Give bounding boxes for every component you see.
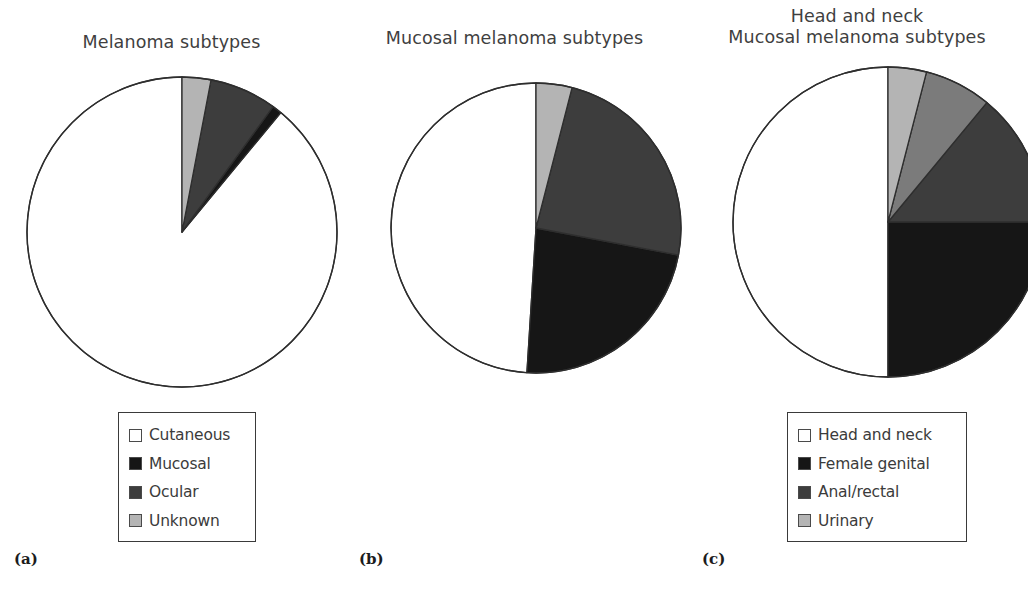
legend-a: CutaneousMucosalOcularUnknown	[118, 412, 256, 542]
legend-row: Ocular	[129, 478, 243, 507]
panel-label-c: (c)	[702, 550, 725, 568]
chart-title-c: Head and neck Mucosal melanoma subtypes	[686, 6, 1028, 48]
pie-slice	[888, 222, 1028, 377]
legend-row: Unknown	[129, 507, 243, 536]
legend-row: Mucosal	[129, 450, 243, 479]
pie-svg-b	[386, 78, 686, 378]
legend-row: Cutaneous	[129, 421, 243, 450]
pie-slice	[391, 83, 536, 373]
panel-b: Mucosal melanoma subtypes Head and neckF…	[343, 0, 686, 595]
pie-chart-a	[22, 72, 342, 396]
chart-title-a: Melanoma subtypes	[0, 32, 343, 53]
legend-swatch-icon	[129, 457, 142, 470]
panel-a: Melanoma subtypes CutaneousMucosalOcular…	[0, 0, 343, 595]
legend-swatch-icon	[129, 486, 142, 499]
pie-chart-b	[386, 78, 686, 382]
chart-title-b: Mucosal melanoma subtypes	[343, 28, 686, 49]
legend-swatch-icon	[129, 429, 142, 442]
pie-svg-c	[728, 62, 1028, 382]
legend-label: Unknown	[149, 512, 220, 530]
panel-label-b: (b)	[359, 550, 384, 568]
panel-label-a: (a)	[14, 550, 38, 568]
legend-label: Cutaneous	[149, 426, 230, 444]
legend-label: Ocular	[149, 483, 199, 501]
legend-label: Mucosal	[149, 455, 211, 473]
pie-svg-a	[22, 72, 342, 392]
panel-c: Head and neck Mucosal melanoma subtypes …	[686, 0, 1028, 595]
pie-slice	[733, 67, 888, 377]
pie-chart-c	[728, 62, 1028, 386]
legend-swatch-icon	[129, 514, 142, 527]
